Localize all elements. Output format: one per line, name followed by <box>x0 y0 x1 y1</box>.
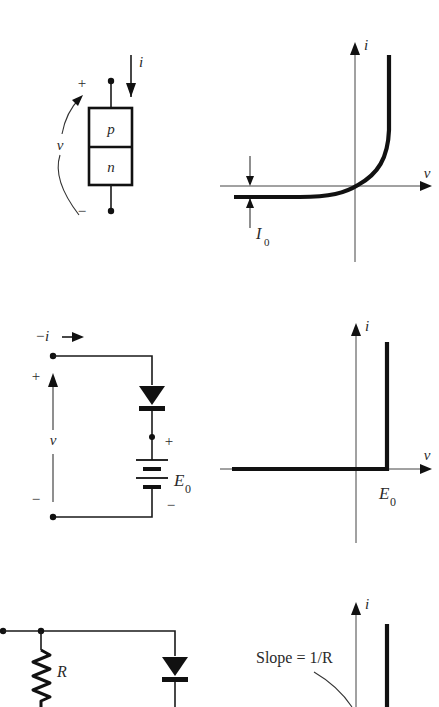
current-label: −i <box>35 328 49 344</box>
slope-annotation: Slope = 1/R <box>256 649 333 667</box>
io-arrowhead-up-icon <box>246 198 254 208</box>
x-axis-arrowhead-icon <box>420 181 432 191</box>
x-axis-arrowhead-icon <box>420 464 432 474</box>
y-axis-arrowhead-icon <box>351 323 361 336</box>
panel-ideal-diode-source: −i + E 0 − + − <box>32 318 432 543</box>
plus-label: + <box>78 75 86 91</box>
bottom-terminal <box>50 514 56 520</box>
io-subscript: 0 <box>264 236 270 248</box>
top-wire <box>3 631 175 656</box>
diode-iv-curve <box>234 55 389 197</box>
y-axis-arrowhead-icon <box>351 602 361 615</box>
voltage-label: v <box>57 137 64 153</box>
node-dot <box>149 434 155 440</box>
plus-label: + <box>32 368 40 384</box>
diode-cathode-bar <box>139 406 165 411</box>
panel-diode-resistor: R i Slope = 1/R <box>0 596 387 707</box>
battery-icon <box>136 460 168 487</box>
pn-junction-circuit: p n i + − v <box>57 54 144 219</box>
current-arrowhead-icon <box>72 332 84 342</box>
voltage-label: v <box>50 432 57 448</box>
bottom-wire <box>53 489 152 517</box>
figure-svg: p n i + − v v i I 0 <box>0 0 439 707</box>
diode-resistor-circuit: R <box>0 628 188 707</box>
x-axis-label: v <box>424 165 431 181</box>
io-arrowhead-down-icon <box>246 176 254 186</box>
diode-cathode-bar <box>162 677 188 682</box>
panel-pn-junction: p n i + − v v i I 0 <box>57 37 432 262</box>
n-region-label: n <box>107 159 115 175</box>
p-region-label: p <box>106 121 115 137</box>
source-subscript: 0 <box>185 482 191 496</box>
ideal-diode-iv-plot: v i E 0 <box>220 318 432 543</box>
ideal-diode-iv-curve <box>232 342 387 469</box>
knee-label: E <box>378 484 390 503</box>
voltage-arrowhead-icon <box>72 95 83 106</box>
io-label: I <box>255 225 262 242</box>
bottom-terminal <box>108 208 114 214</box>
diode-resistor-iv-plot: i Slope = 1/R <box>256 596 387 707</box>
slope-leader-line <box>314 672 352 707</box>
ideal-diode-circuit: −i + E 0 − + − <box>32 328 191 520</box>
resistor-label: R <box>56 663 67 680</box>
voltage-arc-lower <box>58 155 79 215</box>
current-label: i <box>139 54 143 70</box>
y-axis-label: i <box>365 596 369 612</box>
diode-characteristics-figure: p n i + − v v i I 0 <box>0 0 439 707</box>
current-arrowhead-icon <box>126 83 136 97</box>
resistor-icon <box>33 650 50 707</box>
voltage-arrowhead-icon <box>48 373 58 387</box>
top-wire <box>53 356 152 385</box>
y-axis-label: i <box>365 318 369 334</box>
x-axis-label: v <box>424 447 431 463</box>
battery-minus-label: − <box>167 497 175 513</box>
battery-plus-label: + <box>165 433 173 449</box>
knee-subscript: 0 <box>390 495 396 509</box>
diode-icon <box>139 386 165 405</box>
top-terminal <box>108 78 114 84</box>
diode-icon <box>162 657 188 676</box>
source-label: E <box>173 471 185 490</box>
minus-label: − <box>78 203 86 219</box>
pn-junction-iv-plot: v i I 0 <box>220 37 432 262</box>
minus-label: − <box>32 491 40 507</box>
y-axis-arrowhead-icon <box>350 42 360 55</box>
y-axis-label: i <box>364 37 368 53</box>
